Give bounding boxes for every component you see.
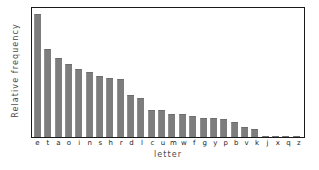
- bar: [262, 136, 269, 137]
- bar-cell: [158, 9, 168, 137]
- bar-cell: [75, 9, 85, 137]
- x-tick-label: s: [96, 139, 105, 148]
- bar: [168, 114, 175, 137]
- bar: [148, 110, 155, 137]
- bar: [231, 122, 238, 137]
- bar: [282, 136, 289, 137]
- bar: [200, 118, 207, 137]
- x-tick: o: [64, 139, 74, 149]
- bar-cell: [241, 9, 251, 137]
- x-tick: f: [190, 139, 200, 149]
- x-tick: i: [75, 139, 85, 149]
- bar-cell: [96, 9, 106, 137]
- x-tick-label: i: [75, 139, 84, 148]
- x-tick-label: y: [211, 139, 220, 148]
- bar: [179, 114, 186, 137]
- x-tick-label: h: [106, 139, 115, 148]
- x-tick: r: [117, 139, 127, 149]
- bar: [210, 118, 217, 137]
- bar-cell: [220, 9, 230, 137]
- x-tick-label: b: [232, 139, 241, 148]
- x-tick-label: v: [242, 139, 251, 148]
- x-tick: z: [294, 139, 304, 149]
- bar-cell: [179, 9, 189, 137]
- x-tick: m: [169, 139, 179, 149]
- bar: [293, 136, 300, 137]
- bar: [137, 98, 144, 137]
- x-tick-label: u: [158, 139, 167, 148]
- x-tick: g: [200, 139, 210, 149]
- bar: [117, 79, 124, 137]
- bar: [158, 110, 165, 137]
- bar-cell: [189, 9, 199, 137]
- x-tick: b: [232, 139, 242, 149]
- x-tick: l: [138, 139, 148, 149]
- bar-cell: [168, 9, 178, 137]
- x-tick-label: d: [127, 139, 136, 148]
- bar-cell: [282, 9, 292, 137]
- x-tick-label: r: [117, 139, 126, 148]
- y-axis-title-text: Relative frequency: [11, 23, 20, 118]
- x-tick: d: [127, 139, 137, 149]
- bar-cell: [65, 9, 75, 137]
- x-tick-label: t: [43, 139, 52, 148]
- bar: [127, 95, 134, 137]
- x-tick: h: [106, 139, 116, 149]
- x-axis-tick-labels: etaoinshrdlcumwfgypbvkjxqz: [33, 139, 305, 149]
- x-tick-label: z: [294, 139, 303, 148]
- bar-cell: [262, 9, 272, 137]
- x-tick-label: e: [33, 139, 42, 148]
- x-tick: k: [253, 139, 263, 149]
- bar-cell: [231, 9, 241, 137]
- bar-cell: [34, 9, 44, 137]
- x-tick-label: g: [200, 139, 209, 148]
- x-tick-label: j: [263, 139, 272, 148]
- bar-series: [34, 9, 303, 137]
- x-tick-label: l: [138, 139, 147, 148]
- bar: [34, 14, 41, 137]
- bar-cell: [251, 9, 261, 137]
- bar: [44, 49, 51, 137]
- bar: [189, 116, 196, 137]
- x-tick: e: [33, 139, 43, 149]
- bar-cell: [293, 9, 303, 137]
- x-tick-label: f: [190, 139, 199, 148]
- x-tick: a: [54, 139, 64, 149]
- x-tick-label: x: [273, 139, 282, 148]
- bar: [65, 64, 72, 137]
- x-tick: q: [284, 139, 294, 149]
- bar-cell: [127, 9, 137, 137]
- x-tick: j: [263, 139, 273, 149]
- bar: [96, 76, 103, 137]
- x-tick: n: [85, 139, 95, 149]
- bar: [272, 136, 279, 137]
- plot-inner: [32, 8, 304, 137]
- x-tick: x: [273, 139, 283, 149]
- x-tick: c: [148, 139, 158, 149]
- x-tick: v: [242, 139, 252, 149]
- x-tick-label: p: [221, 139, 230, 148]
- bar-cell: [137, 9, 147, 137]
- x-tick: y: [211, 139, 221, 149]
- bar: [106, 78, 113, 137]
- bar-cell: [117, 9, 127, 137]
- bar-cell: [200, 9, 210, 137]
- plot-area: [31, 7, 305, 138]
- bar-cell: [210, 9, 220, 137]
- x-tick-label: c: [148, 139, 157, 148]
- bar-cell: [106, 9, 116, 137]
- x-axis-title: letter: [31, 150, 305, 159]
- x-tick: w: [179, 139, 189, 149]
- x-tick-label: w: [179, 139, 188, 148]
- bar-cell: [148, 9, 158, 137]
- x-tick: p: [221, 139, 231, 149]
- x-tick-label: n: [85, 139, 94, 148]
- bar: [241, 127, 248, 137]
- bar-cell: [272, 9, 282, 137]
- chart-screenshot: Relative frequency etaoinshrdlcumwfgypbv…: [0, 0, 319, 170]
- bar: [55, 58, 62, 138]
- x-tick: s: [96, 139, 106, 149]
- bar: [251, 129, 258, 137]
- x-tick-label: m: [169, 139, 178, 148]
- x-tick-label: a: [54, 139, 63, 148]
